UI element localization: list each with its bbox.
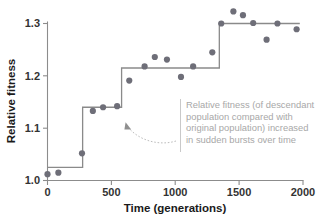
annotation-leader-curve	[128, 127, 176, 143]
data-point	[100, 104, 106, 110]
x-tick-label: 500	[102, 186, 120, 198]
annotation-line: original population) increased	[186, 122, 308, 133]
y-axis-ticks: 1.0 1.1 1.2 1.3	[25, 17, 48, 186]
y-tick-label: 1.1	[25, 122, 40, 134]
data-point	[164, 57, 170, 63]
annotation-group: Relative fitness (of descendant populati…	[124, 99, 314, 152]
data-point	[90, 108, 96, 114]
data-point	[250, 20, 256, 26]
annotation-line: Relative fitness (of descendant	[186, 99, 315, 110]
y-tick-label: 1.2	[25, 70, 40, 82]
annotation-arrow-icon	[124, 122, 131, 129]
annotation-line: in sudden bursts over time	[186, 134, 296, 145]
data-point	[240, 12, 246, 18]
data-point	[114, 103, 120, 109]
data-point	[44, 171, 50, 177]
x-axis-title: Time (generations)	[124, 202, 227, 214]
x-tick-label: 2000	[291, 186, 315, 198]
x-tick-label: 1500	[227, 186, 251, 198]
y-tick-label: 1.3	[25, 17, 40, 29]
data-point	[190, 63, 196, 69]
data-point	[218, 20, 224, 26]
y-axis-title: Relative fitness	[5, 59, 17, 143]
data-point	[79, 150, 85, 156]
data-point-group	[44, 8, 299, 177]
data-point	[152, 54, 158, 60]
annotation-line: population compared with	[186, 111, 293, 122]
x-tick-label: 1000	[163, 186, 187, 198]
data-point	[178, 74, 184, 80]
data-point	[55, 170, 61, 176]
data-point	[263, 37, 269, 43]
y-tick-label: 1.0	[25, 174, 40, 186]
chart-figure: 1.0 1.1 1.2 1.3 0 500 1000 1500 2000 Tim…	[0, 0, 325, 220]
x-axis-ticks: 0 500 1000 1500 2000	[44, 181, 315, 199]
relative-fitness-scatter-chart: 1.0 1.1 1.2 1.3 0 500 1000 1500 2000 Tim…	[0, 0, 325, 220]
data-point	[209, 49, 215, 55]
data-point	[274, 20, 280, 26]
data-point	[141, 63, 147, 69]
data-point	[294, 26, 300, 32]
data-point	[126, 77, 132, 83]
data-point	[230, 8, 236, 14]
x-tick-label: 0	[44, 186, 50, 198]
fitness-step-line	[48, 24, 300, 168]
